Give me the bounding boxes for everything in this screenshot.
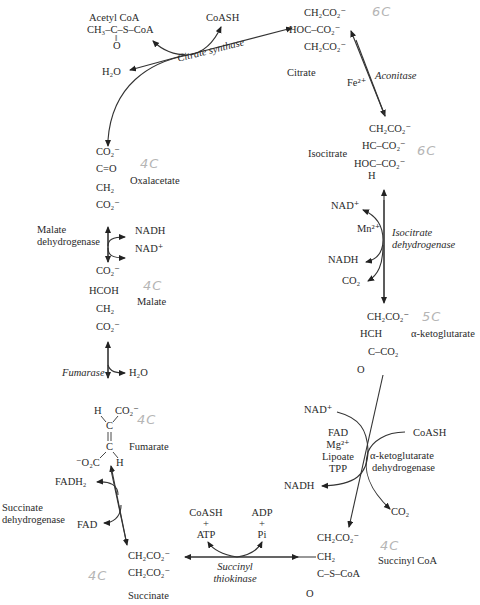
oxalacetate-carbon-note: 4C — [140, 156, 159, 171]
oxalacetate-line2: C=O — [96, 163, 117, 175]
oxalacetate-line4: CO₂⁻ — [96, 199, 120, 211]
enzyme-malate-dh-1: Malate — [37, 224, 66, 236]
oxalacetate-line3: CH₂ — [96, 182, 114, 194]
oxalacetate-label: Oxalacetate — [130, 175, 180, 187]
nadh-malate-dh: NADH — [135, 225, 165, 237]
fumarate-bonds — [0, 0, 480, 605]
malate-line4: CO₂⁻ — [96, 321, 120, 333]
enzyme-malate-dh-2: dehydrogenase — [37, 236, 100, 248]
oxalacetate-line1: CO₂⁻ — [96, 146, 120, 158]
malate-line3: CH₂ — [96, 303, 114, 315]
malate-line2: HCOH — [89, 285, 119, 297]
malate-label: Malate — [137, 296, 166, 308]
nad-malate-dh: NAD⁺ — [135, 243, 163, 255]
malate-line1: CO₂⁻ — [96, 265, 120, 277]
malate-carbon-note: 4C — [143, 278, 162, 293]
h2o-fumarase: H₂O — [129, 367, 148, 379]
enzyme-fumarase: Fumarase — [62, 367, 105, 379]
